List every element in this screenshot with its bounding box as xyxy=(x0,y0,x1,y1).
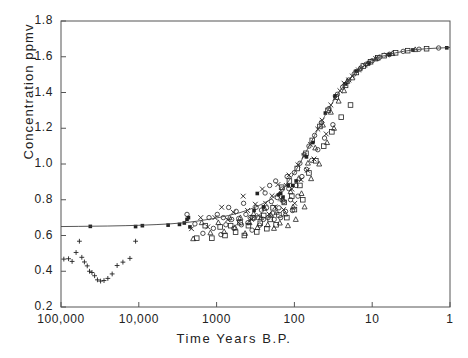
x-tick-label: 100,000 xyxy=(21,312,101,326)
data-point xyxy=(215,212,219,216)
data-point xyxy=(241,194,246,199)
series-4 xyxy=(189,53,389,232)
data-point xyxy=(85,263,90,268)
data-point xyxy=(79,255,84,260)
data-point xyxy=(260,187,265,192)
data-point xyxy=(208,230,213,235)
data-point xyxy=(250,228,254,232)
data-point xyxy=(322,136,326,140)
plot-frame xyxy=(61,21,450,307)
data-point xyxy=(105,276,110,281)
y-tick-label: 0.4 xyxy=(9,263,53,277)
x-tick-label: 1 xyxy=(410,312,468,326)
chart-canvas xyxy=(0,0,468,358)
data-point xyxy=(309,176,314,181)
data-point xyxy=(271,226,276,231)
data-point xyxy=(300,197,305,202)
data-point xyxy=(324,132,329,137)
data-point xyxy=(70,259,75,264)
y-tick-label: 0.6 xyxy=(9,228,53,242)
y-tick-label: 0.8 xyxy=(9,192,53,206)
data-point xyxy=(66,256,71,261)
data-point xyxy=(293,217,298,222)
data-point xyxy=(299,191,304,196)
data-point xyxy=(110,272,115,277)
data-point xyxy=(348,103,353,108)
data-point xyxy=(328,109,333,114)
y-tick-label: 1.4 xyxy=(9,85,53,99)
data-point xyxy=(115,263,120,268)
y-tick-label: 1.6 xyxy=(9,49,53,63)
y-tick-label: 1.8 xyxy=(9,13,53,27)
data-point xyxy=(263,191,267,195)
y-tick-label: 1.2 xyxy=(9,120,53,134)
data-point xyxy=(277,206,281,210)
data-point xyxy=(82,260,87,265)
data-point xyxy=(211,226,215,230)
data-point xyxy=(241,201,245,205)
data-point xyxy=(226,205,230,209)
data-point xyxy=(74,250,79,255)
data-point xyxy=(61,257,66,262)
data-point xyxy=(133,239,138,244)
data-point xyxy=(210,236,215,241)
data-point xyxy=(219,205,224,210)
data-point xyxy=(201,231,205,235)
x-axis-title: Time Years B.P. xyxy=(0,331,468,346)
data-point xyxy=(317,161,322,166)
x-tick-label: 10,000 xyxy=(99,312,179,326)
data-point xyxy=(285,223,290,228)
data-point xyxy=(191,236,196,241)
x-tick-label: 10 xyxy=(332,312,412,326)
data-point xyxy=(193,222,197,226)
series-0 xyxy=(61,239,138,284)
x-tick-label: 1000 xyxy=(177,312,257,326)
data-point xyxy=(255,192,259,196)
fitted-trend-curve xyxy=(61,47,450,226)
data-point xyxy=(128,256,133,261)
data-point xyxy=(102,278,107,283)
data-point xyxy=(325,140,330,145)
data-point xyxy=(92,273,97,278)
data-point xyxy=(339,115,344,120)
axis-ticks xyxy=(61,21,450,307)
data-point xyxy=(302,204,307,209)
data-point xyxy=(216,220,221,225)
series-1 xyxy=(89,46,449,229)
data-point xyxy=(121,260,126,265)
series-5 xyxy=(191,47,418,241)
data-point xyxy=(270,193,275,198)
data-point xyxy=(224,223,228,227)
data-point xyxy=(77,239,82,244)
x-tick-label: 100 xyxy=(254,312,334,326)
data-point xyxy=(141,224,145,228)
data-point xyxy=(254,230,259,235)
data-point xyxy=(267,183,271,187)
y-axis-title: Concentration ppmv xyxy=(21,0,36,212)
y-tick-label: 0.2 xyxy=(9,299,53,313)
data-point xyxy=(218,225,223,230)
data-point xyxy=(198,215,203,220)
data-point xyxy=(244,212,248,216)
methane-concentration-chart: Concentration ppmv Time Years B.P. 0.20.… xyxy=(0,0,468,358)
y-tick-label: 1.0 xyxy=(9,156,53,170)
